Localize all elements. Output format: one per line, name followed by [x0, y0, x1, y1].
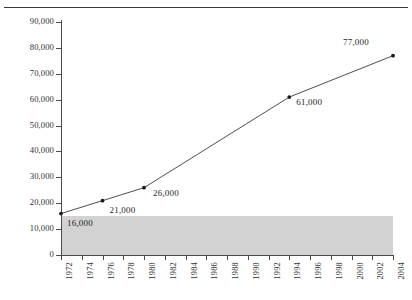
data-point-label: 21,000 [110, 205, 136, 215]
data-point-marker [391, 54, 395, 58]
data-point-label: 16,000 [67, 218, 93, 228]
chart-page: 010,00020,00030,00040,00050,00060,00070,… [0, 0, 412, 300]
data-point-marker [142, 186, 146, 190]
data-point-label: 61,000 [296, 97, 322, 107]
data-point-label: 26,000 [153, 188, 179, 198]
data-point-marker [287, 95, 291, 99]
data-point-marker [59, 212, 63, 216]
data-point-marker [101, 199, 105, 203]
series-polyline [61, 56, 393, 214]
data-point-label: 77,000 [343, 37, 369, 47]
line-chart: 010,00020,00030,00040,00050,00060,00070,… [0, 0, 412, 300]
